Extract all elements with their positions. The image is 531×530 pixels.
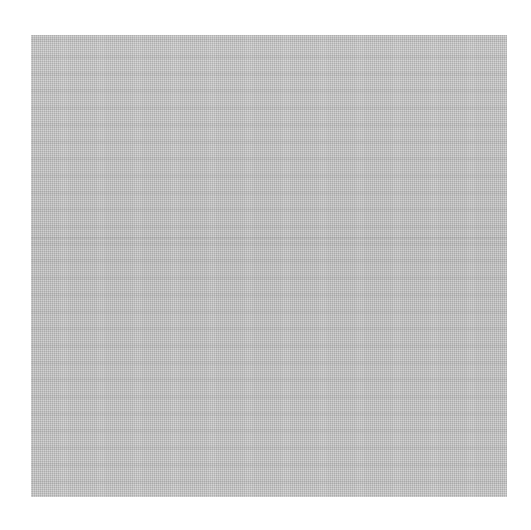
fabric-texture-swatch	[31, 35, 507, 497]
image-subject: gray woven fabric texture swatch	[0, 0, 1, 1]
horizontal-seam	[31, 237, 507, 239]
image-canvas: gray woven fabric texture swatch	[0, 0, 531, 530]
